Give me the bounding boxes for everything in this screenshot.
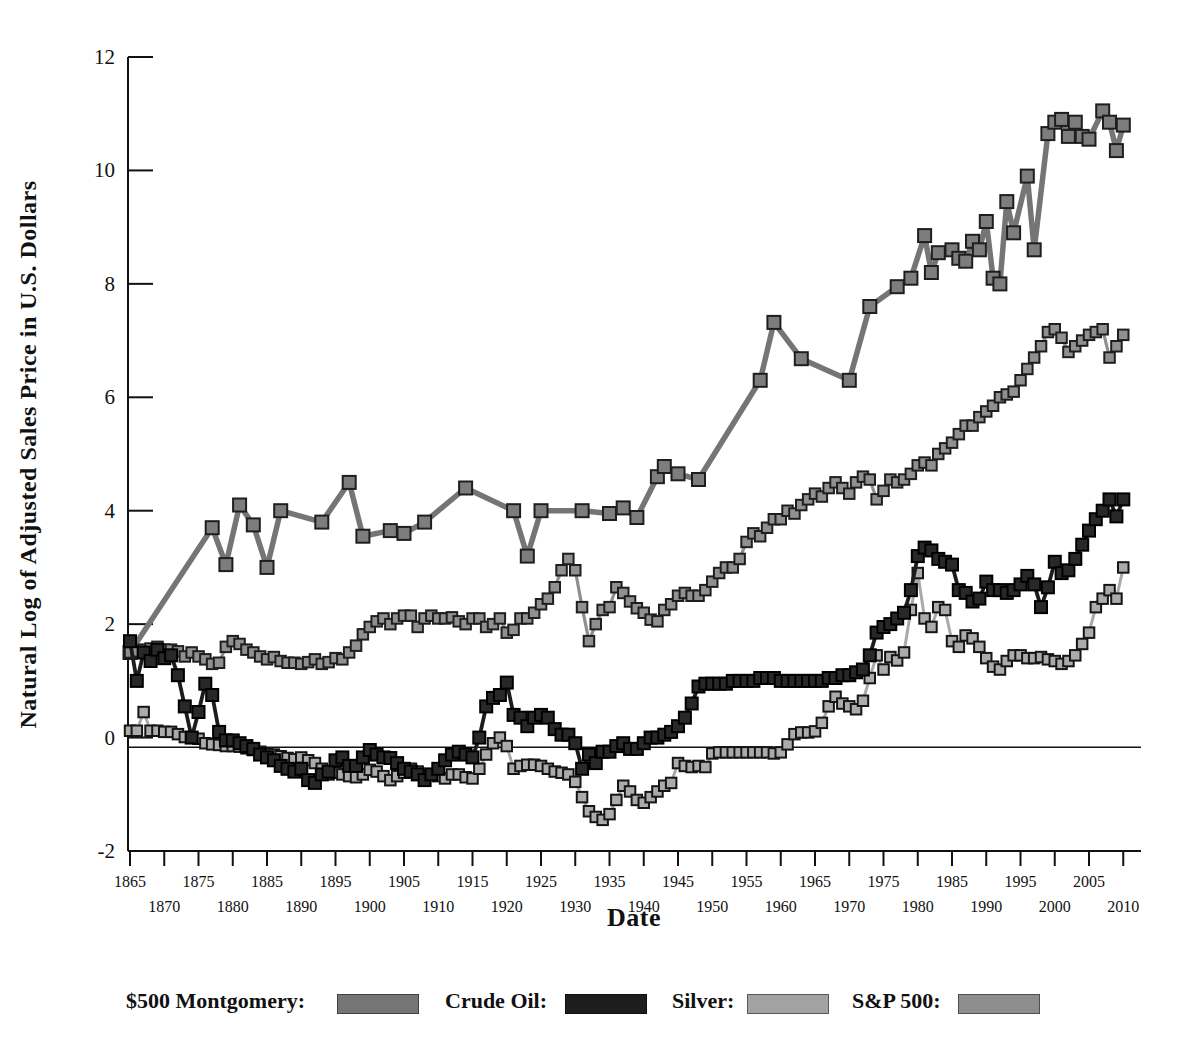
- y-axis-title-wrap: Natural Log of Adjusted Sales Price in U…: [8, 57, 48, 851]
- data-point-marker: [857, 664, 869, 676]
- data-point-marker: [1062, 564, 1074, 576]
- data-point-marker: [145, 655, 157, 667]
- data-point-marker: [1007, 226, 1020, 239]
- data-point-marker: [467, 751, 479, 763]
- data-point-marker: [124, 635, 136, 647]
- y-tick-label: 6: [55, 384, 115, 410]
- data-point-marker: [577, 792, 588, 803]
- data-point-marker: [1111, 593, 1122, 604]
- x-tick-label: 2005: [1073, 872, 1105, 892]
- data-point-marker: [214, 658, 225, 669]
- data-point-marker: [630, 511, 643, 524]
- data-point-marker: [863, 300, 876, 313]
- data-point-marker: [1083, 525, 1095, 537]
- data-point-marker: [1111, 341, 1122, 352]
- data-point-marker: [1076, 539, 1088, 551]
- y-tick-label: 0: [55, 725, 115, 751]
- data-point-marker: [679, 712, 691, 724]
- y-tick-label: -2: [55, 838, 115, 864]
- x-tick-label: 2000: [1039, 897, 1071, 917]
- x-tick-label: 1995: [1005, 872, 1037, 892]
- data-point-marker: [172, 669, 184, 681]
- x-tick-label: 2010: [1107, 897, 1139, 917]
- data-point-marker: [973, 593, 985, 605]
- data-point-marker: [418, 516, 431, 529]
- data-point-marker: [700, 762, 711, 773]
- y-tick-label: 10: [55, 157, 115, 183]
- data-point-marker: [932, 246, 945, 259]
- data-point-marker: [767, 316, 780, 329]
- series-markers-s-p-500: [125, 324, 1129, 669]
- data-point-marker: [261, 561, 274, 574]
- data-point-marker: [274, 504, 287, 517]
- data-point-marker: [186, 732, 198, 744]
- data-point-marker: [734, 554, 745, 565]
- data-point-marker: [576, 504, 589, 517]
- data-point-marker: [754, 374, 767, 387]
- data-point-marker: [1069, 116, 1082, 129]
- data-point-marker: [1104, 493, 1116, 505]
- data-point-marker: [543, 593, 554, 604]
- data-point-marker: [193, 706, 205, 718]
- data-point-marker: [1055, 113, 1068, 126]
- data-point-marker: [604, 602, 615, 613]
- data-point-marker: [1118, 562, 1129, 573]
- data-point-marker: [864, 649, 876, 661]
- chart-figure: Natural Log of Adjusted Sales Price in U…: [0, 0, 1182, 1039]
- data-point-marker: [590, 757, 602, 769]
- x-tick-label: 1990: [970, 897, 1002, 917]
- x-tick-label: 1880: [217, 897, 249, 917]
- data-point-marker: [138, 707, 149, 718]
- data-point-marker: [1029, 352, 1040, 363]
- data-point-marker: [584, 636, 595, 647]
- data-point-marker: [918, 229, 931, 242]
- y-tick-label: 12: [55, 44, 115, 70]
- data-point-marker: [878, 664, 889, 675]
- data-point-marker: [865, 474, 876, 485]
- x-tick-label: 1885: [251, 872, 283, 892]
- data-point-marker: [1070, 650, 1081, 661]
- data-point-marker: [672, 467, 685, 480]
- x-tick-label: 1905: [388, 872, 420, 892]
- data-point-marker: [1117, 119, 1130, 132]
- data-point-marker: [1110, 144, 1123, 157]
- data-point-marker: [356, 530, 369, 543]
- x-tick-label: 1975: [868, 872, 900, 892]
- data-point-marker: [1015, 375, 1026, 386]
- data-point-marker: [692, 473, 705, 486]
- data-point-marker: [782, 739, 793, 750]
- data-point-marker: [521, 550, 534, 563]
- data-point-marker: [1083, 133, 1096, 146]
- x-tick-label: 1865: [114, 872, 146, 892]
- data-point-marker: [1077, 639, 1088, 650]
- data-point-marker: [473, 732, 485, 744]
- x-tick-label: 1960: [765, 897, 797, 917]
- data-point-marker: [481, 749, 492, 760]
- data-point-marker: [891, 280, 904, 293]
- x-tick-label: 1940: [628, 897, 660, 917]
- data-point-marker: [132, 726, 143, 737]
- data-point-marker: [542, 712, 554, 724]
- data-point-marker: [1035, 601, 1047, 613]
- series-line--500-montgomery: [130, 111, 1123, 653]
- data-point-marker: [1049, 556, 1061, 568]
- x-tick-label: 1935: [594, 872, 626, 892]
- data-point-marker: [459, 482, 472, 495]
- data-point-marker: [406, 610, 417, 621]
- data-point-marker: [604, 809, 615, 820]
- series-markers--500-montgomery: [124, 104, 1130, 659]
- x-tick-label: 1985: [936, 872, 968, 892]
- data-point-marker: [1028, 578, 1040, 590]
- data-point-marker: [974, 642, 985, 653]
- data-point-marker: [507, 504, 520, 517]
- data-point-marker: [1110, 510, 1122, 522]
- data-point-marker: [795, 352, 808, 365]
- data-point-marker: [904, 272, 917, 285]
- data-point-marker: [398, 527, 411, 540]
- data-point-marker: [508, 625, 519, 636]
- data-point-marker: [1042, 581, 1054, 593]
- data-point-marker: [1117, 493, 1129, 505]
- data-point-marker: [652, 616, 663, 627]
- data-point-marker: [658, 460, 671, 473]
- x-tick-label: 1875: [183, 872, 215, 892]
